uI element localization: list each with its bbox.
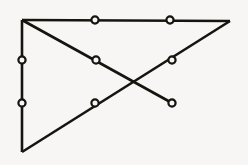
- graph-node-left-edge-upper: [18, 56, 25, 63]
- top-horizontal-edge: [22, 20, 230, 21]
- graph-node-left-edge-lower: [18, 99, 25, 106]
- graph-canvas: [0, 0, 248, 165]
- graph-node-ascending-diagonal-upper: [168, 56, 175, 63]
- graph-node-descending-diagonal-upper: [92, 56, 99, 63]
- figure-background: [0, 0, 248, 165]
- graph-node-descending-diagonal-endpoint: [168, 99, 175, 106]
- graph-node-top-edge-mid-right: [166, 16, 173, 23]
- figure-container: [0, 0, 248, 165]
- graph-node-ascending-diagonal-lower: [91, 99, 98, 106]
- graph-node-top-edge-mid-left: [91, 16, 98, 23]
